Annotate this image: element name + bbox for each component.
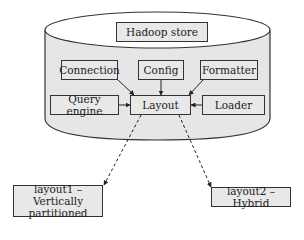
loader-box: Loader <box>202 95 265 115</box>
query-engine-box: Query engine <box>50 95 119 115</box>
formatter-box: Formatter <box>200 60 258 80</box>
layout2-output-box: layout2 – Hybrid <box>211 187 291 207</box>
config-box: Config <box>138 60 184 80</box>
layout-box: Layout <box>130 95 191 115</box>
hadoop-store-label: Hadoop store <box>116 22 208 42</box>
connection-box: Connection <box>61 60 118 80</box>
layout1-output-box: layout1 – Vertically partitioned <box>13 185 103 217</box>
